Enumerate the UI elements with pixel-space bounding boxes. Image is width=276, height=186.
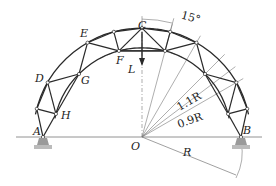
label-A: A [33, 126, 41, 137]
label-L: L [128, 64, 135, 75]
truss-member [56, 74, 79, 114]
joint [117, 49, 120, 52]
truss-member [236, 83, 247, 109]
truss-member [37, 109, 56, 114]
truss-member [88, 43, 119, 51]
load-arrow-head [139, 58, 145, 66]
truss-member [165, 43, 196, 51]
truss-member [37, 83, 48, 109]
truss-member [228, 109, 247, 114]
truss-member [114, 32, 119, 51]
truss-member [228, 83, 236, 114]
support-A [37, 138, 49, 145]
truss-member [48, 83, 56, 114]
label-B: B [243, 125, 251, 136]
joint [86, 41, 89, 44]
label-C: C [138, 20, 146, 31]
label-G: G [81, 75, 90, 86]
joint [246, 107, 249, 110]
angle-ext-line [170, 18, 174, 32]
joint [54, 112, 57, 115]
radial-line [142, 79, 243, 137]
truss-member [43, 114, 56, 137]
truss-member [88, 32, 114, 43]
support-B [235, 138, 247, 145]
joint [46, 81, 49, 84]
truss-member [165, 32, 170, 51]
truss-figure: E C F L D G H A B O 15° 1.1R 0.9R R [0, 0, 276, 186]
truss-member [205, 74, 228, 114]
label-E: E [80, 28, 88, 39]
joint [169, 30, 172, 33]
joint [195, 41, 198, 44]
support-base [34, 145, 52, 149]
joint [226, 112, 229, 115]
joint [235, 81, 238, 84]
label-F: F [116, 55, 124, 66]
truss-member [170, 32, 196, 43]
truss-member [228, 114, 241, 137]
joint [35, 107, 38, 110]
joint [203, 72, 206, 75]
label-H: H [61, 110, 71, 121]
support-base [232, 145, 250, 149]
label-O: O [131, 141, 140, 152]
joint [163, 49, 166, 52]
joint [112, 30, 115, 33]
radius-label: R [183, 147, 191, 158]
angle-dimension-arc [142, 19, 173, 23]
label-D: D [35, 73, 44, 84]
